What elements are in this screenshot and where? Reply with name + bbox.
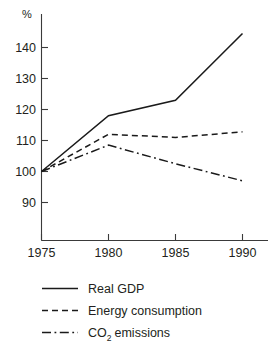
y-label-100: 100 [15,165,36,179]
y-label-90: 90 [22,196,36,210]
chart-svg: % 140 130 120 110 100 90 [0,0,280,346]
line-chart-figure: % 140 130 120 110 100 90 [0,0,280,346]
x-label-1975: 1975 [28,246,56,260]
y-label-140: 140 [15,41,36,55]
legend-label-real-gdp: Real GDP [88,282,144,296]
legend-label-energy-consumption: Energy consumption [88,304,202,318]
legend-co2-prefix: CO [88,326,107,340]
x-label-1990: 1990 [229,246,257,260]
legend-co2-suffix: emissions [114,326,170,340]
y-axis-unit-label: % [22,8,32,20]
y-label-130: 130 [15,72,36,86]
y-label-120: 120 [15,103,36,117]
x-label-1985: 1985 [162,246,190,260]
y-label-110: 110 [16,134,36,148]
legend-co2-subscript: 2 [107,333,112,343]
x-label-1980: 1980 [95,246,123,260]
